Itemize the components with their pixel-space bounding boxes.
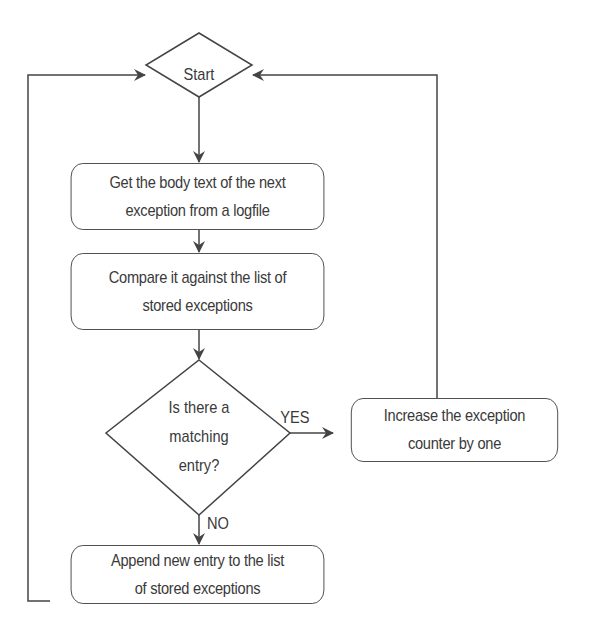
no-label: NO [205, 512, 231, 536]
yes-label: YES [278, 406, 312, 430]
append-line2: of stored exceptions [111, 575, 284, 603]
get-body-box: Get the body text of the next exception … [71, 163, 325, 230]
loop-increase-to-start [253, 75, 437, 398]
decision-line1: Is there a [147, 393, 250, 422]
decision-line2: matching [147, 422, 250, 451]
increase-box: Increase the exception counter by one [351, 398, 558, 462]
get-body-line1: Get the body text of the next [109, 169, 285, 197]
append-line1: Append new entry to the list [111, 547, 284, 575]
increase-line1: Increase the exception [384, 402, 525, 430]
decision-line3: entry? [147, 451, 250, 480]
compare-box: Compare it against the list of stored ex… [71, 253, 325, 330]
decision-label: Is there a matching entry? [147, 393, 250, 480]
compare-line1: Compare it against the list of [109, 264, 287, 292]
increase-line2: counter by one [384, 430, 525, 458]
compare-line2: stored exceptions [109, 292, 287, 320]
start-label: Start [165, 59, 234, 91]
get-body-line2: exception from a logfile [109, 197, 285, 225]
append-box: Append new entry to the list of stored e… [71, 545, 325, 604]
loop-append-to-start [28, 75, 145, 601]
